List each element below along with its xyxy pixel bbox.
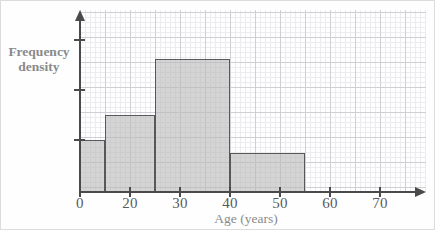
x-axis-tick-label: 30 [160,195,200,212]
y-axis-tick [74,139,85,141]
y-axis-tick [74,89,85,91]
histogram-bar [230,153,305,192]
histogram-bar [80,140,105,192]
y-axis-title: Frequency density [3,44,75,74]
x-axis-tick-label: 50 [260,195,300,212]
histogram-bar [155,59,230,192]
y-axis-line [79,19,81,193]
x-axis-tick-label: 0 [60,195,100,212]
x-axis-arrow-icon [415,187,426,197]
y-axis-arrow-icon [75,10,85,21]
y-axis-title-line2: density [3,59,75,74]
histogram-bar [105,115,155,192]
histogram-figure: Frequency density Age (years) 0203040506… [0,0,435,230]
y-axis-title-line1: Frequency [8,44,69,59]
x-axis-tick-label: 70 [360,195,400,212]
x-axis-tick-label: 40 [210,195,250,212]
x-axis-tick-label: 20 [110,195,150,212]
x-axis-tick-label: 60 [310,195,350,212]
x-axis-title: Age (years) [156,211,336,227]
y-axis-tick [74,39,85,41]
